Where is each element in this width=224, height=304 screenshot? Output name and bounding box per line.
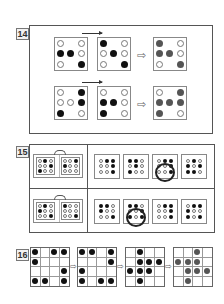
filled-dot <box>186 215 190 219</box>
hollow-arrow-icon: ⇨ <box>137 99 146 109</box>
filled-dot <box>198 164 202 168</box>
right-arrow-icon <box>82 82 102 83</box>
blank-cell <box>67 89 74 96</box>
left-grid-2 <box>61 157 80 175</box>
filled-dot <box>192 204 196 208</box>
empty-dot <box>198 170 202 174</box>
filled-dot <box>169 215 173 219</box>
option-4[interactable] <box>181 154 207 179</box>
puzzle-14-label: 14 <box>16 28 29 40</box>
filled-dot <box>198 204 202 208</box>
empty-dot <box>111 204 115 208</box>
flip-arc-icon <box>54 150 66 155</box>
grid-cell <box>78 258 88 268</box>
empty-dot <box>105 164 109 168</box>
grid-4x4-4 <box>173 247 213 287</box>
filled-dot <box>78 89 85 96</box>
filled-dot <box>137 268 143 274</box>
empty-dot <box>63 214 67 218</box>
option-2[interactable] <box>123 154 149 179</box>
gray-dot <box>185 268 191 274</box>
empty-dot <box>121 110 128 117</box>
empty-dot <box>140 164 144 168</box>
grid-cell <box>78 248 88 258</box>
filled-dot <box>156 259 162 265</box>
empty-dot <box>43 169 47 173</box>
hollow-arrow-icon: ⇨ <box>117 262 124 272</box>
answer-circle-mark <box>126 208 146 227</box>
gray-dot <box>194 259 200 265</box>
grid-cell <box>50 258 60 268</box>
filled-dot <box>42 278 48 284</box>
empty-dot <box>38 204 42 208</box>
grid-cell <box>193 267 203 277</box>
grid-cell <box>145 277 155 287</box>
option-3[interactable] <box>152 199 178 224</box>
empty-dot <box>163 209 167 213</box>
grid-cell <box>126 267 136 277</box>
empty-dot <box>105 209 109 213</box>
filled-dot <box>105 204 109 208</box>
gray-dot <box>156 99 163 106</box>
grid-a <box>54 86 88 120</box>
empty-dot <box>157 159 161 163</box>
empty-dot <box>43 214 47 218</box>
grid-cell <box>136 277 146 287</box>
filled-dot <box>98 278 104 284</box>
grid-cell <box>31 258 41 268</box>
hollow-arrow-icon: ⇨ <box>165 262 172 272</box>
flip-arc-icon <box>54 195 66 200</box>
filled-dot <box>192 170 196 174</box>
grid-cell <box>193 258 203 268</box>
grid-b <box>97 86 131 120</box>
grid-cell <box>126 277 136 287</box>
empty-dot <box>157 209 161 213</box>
empty-dot <box>38 214 42 218</box>
filled-dot <box>108 278 114 284</box>
filled-dot <box>78 61 85 68</box>
empty-dot <box>99 170 103 174</box>
pair-separator <box>59 200 60 222</box>
filled-dot <box>128 204 132 208</box>
empty-dot <box>74 209 78 213</box>
empty-dot <box>186 204 190 208</box>
empty-dot <box>186 159 190 163</box>
grid-cell <box>97 248 107 258</box>
filled-dot <box>169 209 173 213</box>
option-1[interactable] <box>94 154 120 179</box>
blank-cell <box>110 61 117 68</box>
grid-result <box>153 86 187 120</box>
filled-dot <box>43 204 47 208</box>
filled-dot <box>192 159 196 163</box>
empty-dot <box>99 215 103 219</box>
empty-dot <box>68 209 72 213</box>
blank-cell <box>166 89 173 96</box>
filled-dot <box>100 110 107 117</box>
grid-cell <box>126 248 136 258</box>
empty-dot <box>57 99 64 106</box>
blank-cell <box>110 40 117 47</box>
empty-dot <box>57 40 64 47</box>
filled-dot <box>146 259 152 265</box>
filled-dot <box>110 99 117 106</box>
blank-cell <box>166 40 173 47</box>
filled-dot <box>128 170 132 174</box>
grid-cell <box>155 267 165 277</box>
option-4[interactable] <box>181 199 207 224</box>
filled-dot <box>43 159 47 163</box>
grid-a <box>54 37 88 71</box>
blank-cell <box>67 110 74 117</box>
filled-dot <box>63 204 67 208</box>
filled-dot <box>110 50 117 57</box>
filled-dot <box>105 159 109 163</box>
empty-dot <box>157 204 161 208</box>
option-1[interactable] <box>94 199 120 224</box>
filled-dot <box>111 159 115 163</box>
grid-cell <box>97 277 107 287</box>
grid-cell <box>155 277 165 287</box>
grid-4x4-3 <box>125 247 165 287</box>
gray-dot <box>156 110 163 117</box>
grid-cell <box>184 267 194 277</box>
filled-dot <box>78 99 85 106</box>
left-grid-1 <box>36 157 55 175</box>
